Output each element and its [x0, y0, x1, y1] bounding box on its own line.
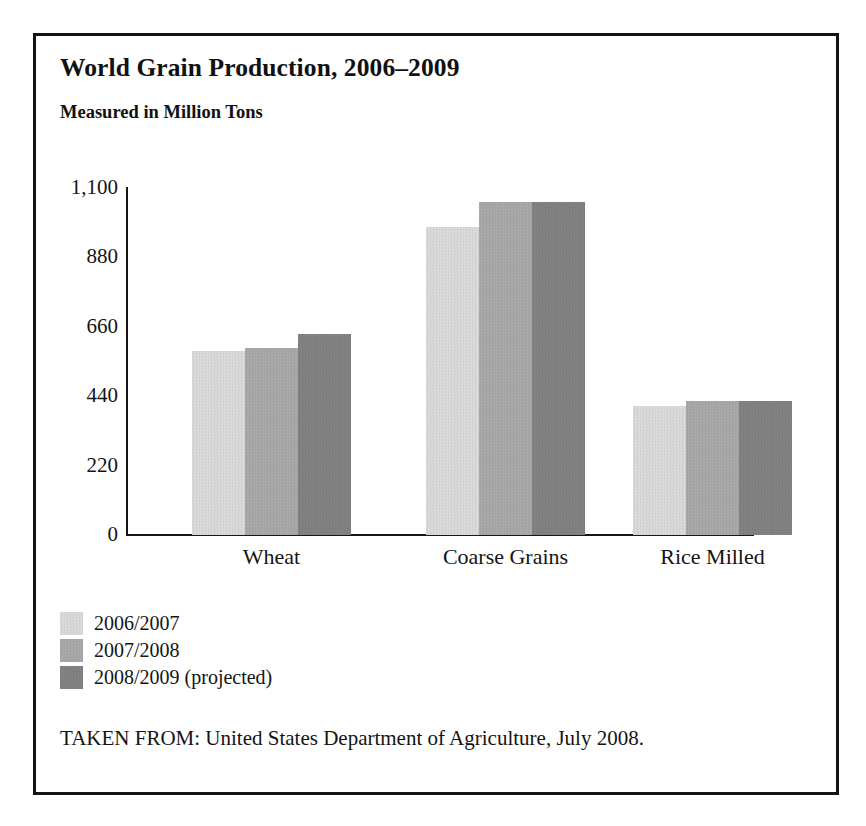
bar [245, 348, 298, 535]
y-tick-label: 220 [40, 455, 118, 476]
legend-label: 2008/2009 (projected) [94, 666, 272, 689]
legend-item: 2008/2009 (projected) [60, 664, 480, 691]
y-tick-label: 0 [40, 524, 118, 545]
category-label: Wheat [192, 544, 351, 570]
chart-frame: World Grain Production, 2006–2009 Measur… [33, 33, 839, 795]
bar [686, 401, 739, 535]
category-label: Coarse Grains [426, 544, 585, 570]
legend-swatch [60, 612, 83, 635]
legend-label: 2007/2008 [94, 639, 180, 662]
y-tick-label: 440 [40, 385, 118, 406]
legend-item: 2006/2007 [60, 610, 480, 637]
y-axis-line [126, 187, 128, 536]
y-tick-label: 880 [40, 246, 118, 267]
bar [192, 351, 245, 535]
category-label: Rice Milled [633, 544, 792, 570]
legend-swatch [60, 666, 83, 689]
bar [633, 406, 686, 535]
legend-item: 2007/2008 [60, 637, 480, 664]
legend-swatch [60, 639, 83, 662]
bar [479, 202, 532, 535]
bar [426, 227, 479, 535]
legend-label: 2006/2007 [94, 612, 180, 635]
y-tick-label: 1,100 [40, 177, 118, 198]
bar [739, 401, 792, 535]
source-note: TAKEN FROM: United States Department of … [60, 726, 644, 751]
bar [532, 202, 585, 535]
y-tick-label: 660 [40, 316, 118, 337]
bar [298, 334, 351, 535]
chart-legend: 2006/20072007/20082008/2009 (projected) [60, 610, 480, 691]
